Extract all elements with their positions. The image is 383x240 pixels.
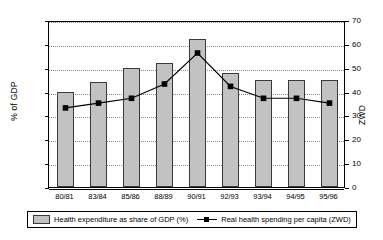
line-marker bbox=[261, 96, 267, 102]
y-tick-label-right: 40 bbox=[352, 89, 382, 97]
y-tick-label-right: 30 bbox=[352, 112, 382, 120]
legend-bar-swatch-icon bbox=[33, 215, 50, 224]
y-tick-mark-right bbox=[345, 140, 349, 141]
y-tick-mark-right bbox=[345, 45, 349, 46]
y-tick-mark-right bbox=[345, 93, 349, 94]
y-tick-label-right: 50 bbox=[352, 65, 382, 73]
y-tick-mark-right bbox=[345, 21, 349, 22]
plot-area bbox=[48, 21, 345, 188]
line-marker bbox=[195, 50, 201, 56]
y-tick-label-right: 70 bbox=[352, 17, 382, 25]
line-marker bbox=[96, 100, 102, 106]
y-tick-mark-left bbox=[45, 164, 49, 165]
y-tick-mark-right bbox=[345, 164, 349, 165]
legend-label: Health expenditure as share of GDP (%) bbox=[54, 215, 188, 224]
y-tick-mark-right bbox=[345, 116, 349, 117]
y-axis-left-title: % of GDP bbox=[9, 71, 19, 131]
line-marker bbox=[228, 84, 234, 90]
chart-legend: Health expenditure as share of GDP (%)Re… bbox=[27, 211, 357, 228]
gridline bbox=[49, 189, 344, 190]
line-marker bbox=[162, 81, 168, 87]
y-tick-label-right: 20 bbox=[352, 136, 382, 144]
y-tick-mark-left bbox=[45, 188, 49, 189]
legend-line-marker-icon bbox=[197, 216, 217, 223]
y-tick-label-right: 60 bbox=[352, 41, 382, 49]
y-tick-mark-right bbox=[345, 69, 349, 70]
y-tick-mark-left bbox=[45, 45, 49, 46]
y-tick-mark-left bbox=[45, 69, 49, 70]
legend-label: Real health spending per capita (ZWD) bbox=[221, 215, 351, 224]
line-marker bbox=[294, 96, 300, 102]
y-tick-mark-left bbox=[45, 116, 49, 117]
y-tick-label-right: 10 bbox=[352, 160, 382, 168]
x-axis-label: 95/96 bbox=[309, 192, 349, 201]
legend-item[interactable]: Health expenditure as share of GDP (%) bbox=[33, 215, 188, 224]
y-tick-mark-left bbox=[45, 21, 49, 22]
y-tick-mark-left bbox=[45, 93, 49, 94]
chart-container: % of GDP ZWD 00.511.522.533.5 0102030405… bbox=[0, 0, 383, 240]
y-tick-label-right: 0 bbox=[352, 184, 382, 192]
line-marker bbox=[63, 105, 69, 111]
line-path bbox=[66, 53, 330, 108]
y-tick-mark-left bbox=[45, 140, 49, 141]
legend-item[interactable]: Real health spending per capita (ZWD) bbox=[197, 215, 351, 224]
line-series bbox=[49, 22, 346, 189]
line-marker bbox=[327, 100, 333, 106]
y-tick-mark-right bbox=[345, 188, 349, 189]
line-marker bbox=[129, 96, 135, 102]
